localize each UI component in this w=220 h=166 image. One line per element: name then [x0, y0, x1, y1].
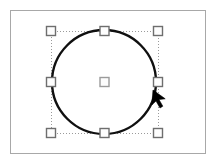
drawing-canvas-frame[interactable] [10, 10, 206, 154]
shape-selection-canvas-app: Shape Selection Canvas [0, 0, 220, 166]
page-title: Shape Selection Canvas [0, 21, 1, 22]
